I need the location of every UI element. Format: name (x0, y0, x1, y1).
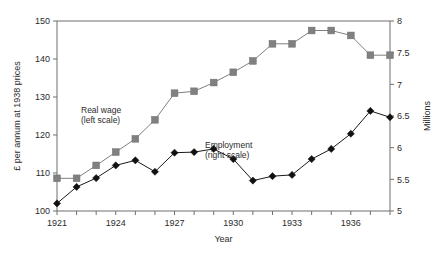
data-point-real-wage (230, 69, 237, 76)
legend-label-real-wage-line2: (left scale) (81, 115, 120, 125)
data-point-employment (269, 173, 276, 180)
y-axis-left-title: £ per annum at 1938 prices (12, 61, 22, 171)
data-point-real-wage (132, 135, 139, 142)
y-axis-left-tick-label: 110 (36, 168, 50, 178)
y-axis-right-tick-label: 5 (397, 206, 402, 216)
y-axis-left-tick-label: 100 (35, 206, 50, 216)
data-point-real-wage (54, 175, 61, 182)
legend-label-real-wage-line1: Real wage (81, 105, 121, 115)
line-chart: 10011012013014015055.566.577.58192119241… (0, 0, 445, 254)
data-point-real-wage (210, 79, 217, 86)
y-axis-right-tick-label: 5.5 (397, 175, 410, 185)
data-point-employment (112, 162, 119, 169)
y-axis-right-tick-label: 6 (397, 143, 402, 153)
data-point-real-wage (73, 175, 80, 182)
data-point-real-wage (93, 162, 100, 169)
x-axis-tick-label: 1927 (165, 218, 185, 228)
x-axis-tick-label: 1933 (282, 218, 302, 228)
y-axis-right-tick-label: 7.5 (397, 48, 410, 58)
legend-label-employment-line1: Employment (205, 140, 253, 150)
x-axis-title: Year (214, 234, 232, 244)
y-axis-left-tick-label: 150 (35, 16, 50, 26)
data-point-real-wage (289, 40, 296, 47)
x-axis-tick-label: 1936 (341, 218, 361, 228)
y-axis-right-title: Millions (422, 101, 432, 132)
y-axis-left-tick-label: 140 (35, 54, 50, 64)
data-point-real-wage (308, 27, 315, 34)
y-axis-right-tick-label: 6.5 (397, 111, 410, 121)
data-point-real-wage (367, 52, 374, 59)
data-point-real-wage (171, 90, 178, 97)
x-axis-tick-label: 1921 (47, 218, 67, 228)
data-point-real-wage (152, 116, 159, 123)
chart-container: 10011012013014015055.566.577.58192119241… (0, 0, 445, 254)
data-point-employment (93, 174, 100, 181)
data-point-real-wage (269, 40, 276, 47)
data-point-real-wage (191, 88, 198, 95)
data-point-real-wage (347, 32, 354, 39)
y-axis-left-tick-label: 120 (35, 130, 50, 140)
data-point-employment (132, 157, 139, 164)
y-axis-right-tick-label: 8 (397, 16, 402, 26)
x-axis-tick-label: 1924 (106, 218, 126, 228)
y-axis-left-tick-label: 130 (35, 92, 50, 102)
data-point-employment (191, 149, 198, 156)
data-point-employment (386, 114, 393, 121)
x-axis-tick-label: 1930 (223, 218, 243, 228)
data-point-real-wage (112, 149, 119, 156)
legend-label-employment-line2: (right scale) (205, 150, 250, 160)
y-axis-right-tick-label: 7 (397, 80, 402, 90)
data-point-real-wage (387, 52, 394, 59)
data-point-real-wage (328, 27, 335, 34)
data-point-real-wage (249, 58, 256, 65)
